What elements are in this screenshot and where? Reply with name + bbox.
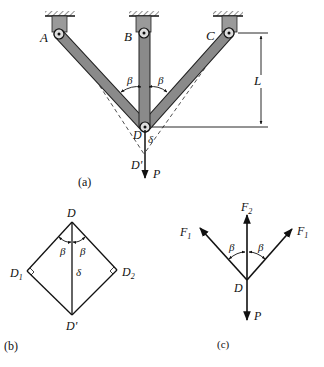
label-p-c: P (253, 309, 262, 323)
angle-b-right: β (79, 245, 86, 257)
angle-c-left: β (228, 241, 235, 253)
label-a: A (39, 30, 48, 45)
figure-b: D β β δ D1 D2 D' (b) (4, 206, 135, 353)
label-b: B (124, 29, 132, 44)
deflection-label: δ (148, 133, 154, 145)
label-c: C (206, 28, 215, 43)
label-d2: D2 (121, 265, 135, 281)
angle-arc-c-right (249, 252, 265, 259)
angle-arc-c-left (229, 252, 245, 259)
load-label: P (152, 167, 161, 181)
joint-d-label: D (132, 128, 142, 142)
support-ceilings (45, 11, 243, 16)
angle-arc-b-right (73, 237, 85, 242)
figure-c: F1 F2 F1 β β D P (c) (179, 200, 308, 351)
angle-b-left: β (59, 245, 66, 257)
angle-beta-right: β (157, 74, 164, 86)
force-f1-right-arrow (247, 229, 292, 280)
label-f1-left: F1 (179, 225, 191, 241)
angle-arc-left (121, 87, 141, 92)
label-f1-right: F1 (296, 224, 308, 240)
label-f2: F2 (240, 200, 252, 216)
angle-c-right: β (257, 241, 264, 253)
figure-a: A B C β β L D δ D' P (a) (39, 11, 268, 189)
displaced-joint-label: D' (130, 158, 143, 172)
label-d-prime: D' (65, 319, 78, 333)
truss-diagram: A B C β β L D δ D' P (a) D β β δ D1 D2 D… (0, 0, 324, 367)
force-f1-left-arrow (200, 228, 247, 280)
angle-arc-b-left (59, 237, 71, 242)
deflection-b: δ (76, 266, 82, 278)
caption-b: (b) (4, 339, 18, 353)
caption-c: (c) (217, 338, 230, 351)
angle-arc-right (149, 87, 167, 92)
label-d-c: D (233, 281, 243, 295)
angle-beta-left: β (126, 74, 133, 86)
bars (59, 32, 229, 127)
label-d1: D1 (9, 266, 23, 282)
length-label: L (253, 73, 261, 88)
label-d-top: D (66, 206, 76, 220)
caption-a: (a) (78, 175, 91, 189)
